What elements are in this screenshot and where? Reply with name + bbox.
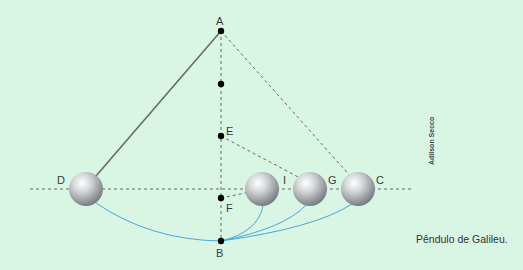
arc-b-c [221, 204, 352, 241]
diagram-canvas [0, 0, 523, 270]
pendulum-diagram: A E F B D I G C Adilson Secco Pêndulo de… [0, 0, 523, 270]
label-d: D [57, 175, 65, 186]
ball-d [69, 172, 103, 206]
ball-i [245, 172, 279, 206]
label-b: B [216, 248, 223, 259]
label-e: E [226, 126, 233, 137]
label-g: G [328, 175, 337, 186]
dashed-line-a-c [221, 31, 352, 178]
label-f: F [226, 203, 233, 214]
point-b [218, 238, 224, 244]
image-credit: Adilson Secco [428, 117, 435, 165]
ball-g [293, 172, 327, 206]
arc-b-g [221, 205, 306, 241]
point-e [218, 133, 224, 139]
point-f [218, 195, 224, 201]
point-mid [218, 81, 224, 87]
label-i: I [283, 175, 286, 186]
dashed-line-e-g [221, 136, 300, 178]
label-a: A [216, 16, 223, 27]
figure-caption: Pêndulo de Galileu. [416, 233, 508, 245]
pendulum-string [96, 31, 221, 176]
point-a [218, 28, 224, 34]
arc-d-b [96, 203, 221, 241]
label-c: C [376, 175, 384, 186]
ball-c [341, 172, 375, 206]
